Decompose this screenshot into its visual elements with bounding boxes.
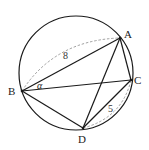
vertex-c-dot (130, 79, 133, 82)
vertex-a-dot (119, 37, 122, 40)
segment-bd (22, 91, 83, 128)
angle-alpha-label: α (37, 80, 43, 91)
vertex-c-label: C (134, 74, 141, 86)
length-ab-label: 8 (63, 50, 68, 61)
geometry-diagram: A B C D 8 5 α (0, 0, 149, 150)
vertex-b-label: B (8, 85, 15, 97)
vertex-a-label: A (124, 28, 132, 40)
length-cd-label: 5 (108, 103, 113, 114)
vertex-b-dot (21, 90, 24, 93)
vertex-d-label: D (78, 133, 86, 145)
vertex-d-dot (82, 127, 85, 130)
